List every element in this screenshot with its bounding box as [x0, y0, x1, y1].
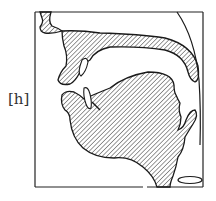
glottis — [178, 177, 202, 184]
palate — [58, 31, 199, 85]
upper-lip — [40, 12, 62, 33]
vocal-tract-diagram — [0, 0, 216, 201]
tongue — [61, 72, 196, 187]
